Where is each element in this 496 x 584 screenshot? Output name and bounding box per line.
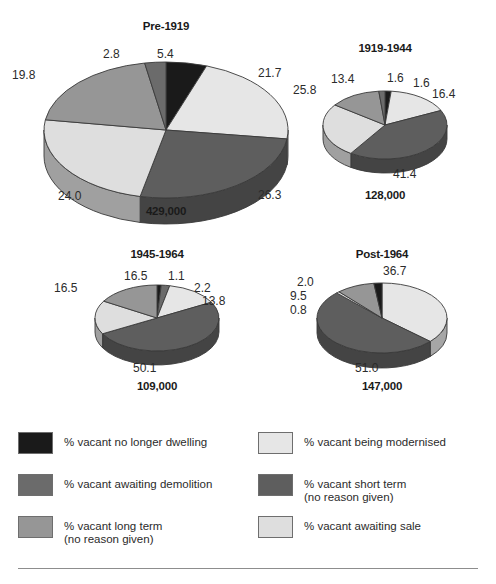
- slice-value-label: 36.7: [383, 264, 406, 278]
- legend-label-long_term: % vacant long term (no reason given): [64, 516, 162, 545]
- slice-value-label: 2.0: [297, 275, 314, 289]
- legend-item-awaiting_demolition: % vacant awaiting demolition: [18, 474, 212, 496]
- pie-chart-figure: Pre-19195.421.726.324.019.82.8429,000191…: [0, 0, 496, 584]
- legend-item-awaiting_sale: % vacant awaiting sale: [258, 516, 421, 538]
- pie-total-label: 147,000: [329, 380, 435, 392]
- legend-label-short_term: % vacant short term (no reason given): [304, 474, 406, 503]
- legend-label-awaiting_sale: % vacant awaiting sale: [304, 516, 421, 533]
- legend-swatch-no_longer_dwelling: [18, 432, 53, 454]
- slice-value-label: 9.5: [290, 289, 307, 303]
- chart-legend: % vacant no longer dwelling% vacant awai…: [0, 432, 496, 552]
- legend-swatch-awaiting_demolition: [18, 474, 53, 496]
- legend-label-being_modernised: % vacant being modernised: [304, 432, 446, 449]
- legend-label-awaiting_demolition: % vacant awaiting demolition: [64, 474, 212, 491]
- legend-swatch-short_term: [258, 474, 293, 496]
- slice-value-label: 0.8: [290, 303, 307, 317]
- footer-divider: [18, 568, 478, 569]
- legend-item-long_term: % vacant long term (no reason given): [18, 516, 162, 545]
- slice-value-label: 51.0: [355, 361, 378, 375]
- legend-label-no_longer_dwelling: % vacant no longer dwelling: [64, 432, 207, 449]
- legend-swatch-awaiting_sale: [258, 516, 293, 538]
- pie-top-faces: [317, 283, 447, 353]
- legend-item-no_longer_dwelling: % vacant no longer dwelling: [18, 432, 207, 454]
- legend-swatch-being_modernised: [258, 432, 293, 454]
- legend-item-short_term: % vacant short term (no reason given): [258, 474, 406, 503]
- legend-swatch-long_term: [18, 516, 53, 538]
- legend-item-being_modernised: % vacant being modernised: [258, 432, 446, 454]
